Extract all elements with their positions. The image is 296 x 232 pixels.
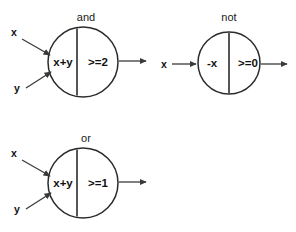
gate-or-input-y-wire bbox=[26, 193, 51, 209]
gate-not-input-x-label: x bbox=[161, 58, 167, 70]
gate-or-input-y-label: y bbox=[14, 203, 20, 215]
gate-or-right-expr: >=1 bbox=[88, 177, 108, 189]
gate-or-input-x-label: x bbox=[11, 147, 17, 159]
gate-or-title: or bbox=[81, 132, 91, 144]
logic-gate-diagram: and x+y >=2 x y not -x >=0 x or bbox=[0, 0, 296, 232]
gate-not: not -x >=0 x bbox=[161, 11, 287, 94]
gate-not-right-expr: >=0 bbox=[238, 57, 258, 69]
gate-and-right-expr: >=2 bbox=[88, 56, 108, 68]
gate-or: or x+y >=1 x y bbox=[11, 132, 146, 218]
gate-or-input-x-wire bbox=[22, 160, 50, 176]
gate-and-input-x-label: x bbox=[11, 26, 17, 38]
gate-and-input-y-label: y bbox=[14, 82, 20, 94]
gate-and-input-x-wire bbox=[22, 39, 50, 55]
diagram-svg: and x+y >=2 x y not -x >=0 x or bbox=[0, 0, 296, 232]
gate-and: and x+y >=2 x y bbox=[11, 11, 146, 97]
gate-and-title: and bbox=[77, 11, 95, 23]
gate-and-input-y-wire bbox=[26, 72, 51, 88]
gate-or-left-expr: x+y bbox=[53, 177, 73, 189]
gate-and-left-expr: x+y bbox=[53, 56, 73, 68]
gate-not-left-expr: -x bbox=[207, 57, 218, 69]
gate-not-title: not bbox=[221, 11, 236, 23]
